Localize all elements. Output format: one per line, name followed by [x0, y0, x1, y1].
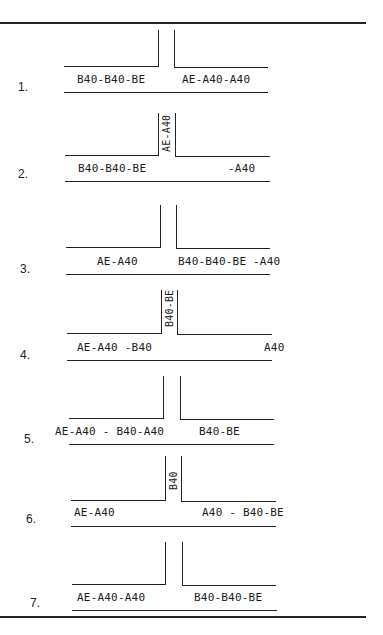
- right-label: B40-BE: [199, 426, 240, 438]
- stem-left-wall: [158, 113, 159, 156]
- upper-left-line: [71, 500, 166, 501]
- upper-right-line: [177, 334, 272, 335]
- upper-right-line: [175, 156, 270, 157]
- lower-line: [67, 360, 272, 361]
- left-label: AE-A40 -B40: [77, 342, 152, 354]
- diagram-number: 1.: [18, 80, 28, 94]
- lower-line: [64, 92, 268, 93]
- stem-right-wall: [180, 376, 181, 419]
- upper-left-line: [64, 66, 159, 67]
- stem-left-wall: [165, 542, 166, 585]
- upper-left-line: [65, 155, 159, 156]
- stem-right-wall: [181, 456, 182, 501]
- diagram-number: 5.: [24, 432, 34, 446]
- diagram-number: 4.: [20, 348, 30, 362]
- left-label: B40-B40-BE: [77, 74, 145, 86]
- top-rule: [0, 22, 366, 24]
- left-label: AE-A40: [97, 256, 138, 268]
- upper-right-line: [174, 67, 268, 68]
- stem-left-wall: [160, 205, 161, 248]
- upper-right-line: [180, 419, 274, 420]
- stem-label: B40: [168, 471, 179, 490]
- left-label: AE-A40: [74, 507, 115, 519]
- left-label: AE-A40 - B40-A40: [55, 426, 164, 438]
- stem-left-wall: [158, 30, 159, 67]
- stem-label: AE-A40: [161, 115, 172, 152]
- lower-line: [69, 444, 274, 445]
- upper-left-line: [69, 418, 164, 419]
- upper-left-line: [67, 333, 162, 334]
- right-label: A40 - B40-BE: [202, 507, 284, 519]
- bottom-rule: [0, 616, 366, 618]
- upper-right-line: [176, 248, 270, 249]
- left-label: AE-A40-A40: [77, 592, 145, 604]
- stem-left-wall: [161, 290, 162, 334]
- stem-right-wall: [182, 542, 183, 585]
- right-label: AE-A40-A40: [182, 74, 250, 86]
- upper-left-line: [72, 584, 166, 585]
- lower-line: [65, 181, 270, 182]
- right-label: B40-B40-BE: [194, 592, 262, 604]
- lower-line: [66, 274, 270, 275]
- right-label: B40-B40-BE -A40: [178, 256, 280, 268]
- diagram-number: 6.: [26, 512, 36, 526]
- upper-right-line: [181, 501, 276, 502]
- right-label: A40: [264, 342, 284, 354]
- stem-right-wall: [175, 113, 176, 156]
- stem-right-wall: [176, 205, 177, 248]
- diagram-number: 3.: [20, 262, 30, 276]
- stem-right-wall: [177, 290, 178, 334]
- right-label: -A40: [228, 163, 255, 175]
- diagram-number: 7.: [30, 596, 40, 610]
- upper-left-line: [66, 247, 161, 248]
- stem-label: B40-BE: [164, 290, 175, 327]
- stem-left-wall: [163, 376, 164, 419]
- upper-right-line: [182, 585, 276, 586]
- diagram-number: 2.: [18, 167, 28, 181]
- left-label: B40-B40-BE: [78, 163, 146, 175]
- stem-right-wall: [174, 30, 175, 67]
- lower-line: [72, 610, 277, 611]
- stem-left-wall: [165, 456, 166, 501]
- lower-line: [71, 526, 276, 527]
